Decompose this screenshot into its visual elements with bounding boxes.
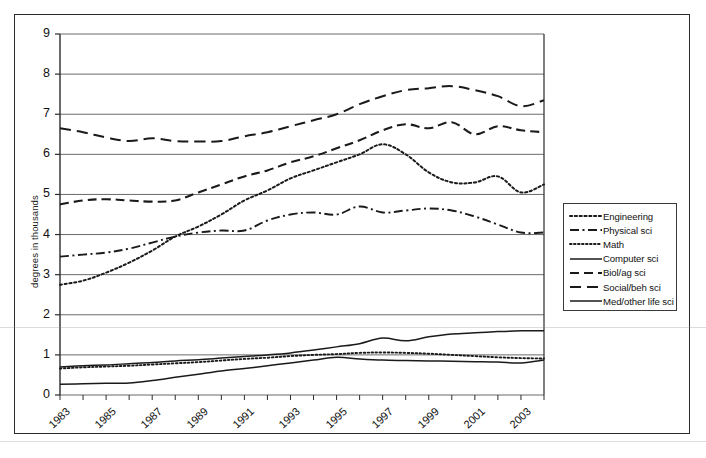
legend-item-label: Med/other life sci	[603, 296, 674, 307]
figure-container: degrees in thousands 9876543210 19831985…	[0, 0, 706, 458]
series-line	[60, 206, 544, 256]
legend-item-label: Biol/ag sci	[603, 267, 646, 278]
legend-line-swatch	[569, 296, 603, 306]
legend-item: Biol/ag sci	[564, 266, 676, 280]
y-tick-label: 9	[30, 26, 50, 40]
y-tick-label: 3	[30, 267, 50, 281]
y-tick-label: 8	[30, 66, 50, 80]
legend-line-swatch	[569, 211, 603, 221]
legend-item-label: Computer sci	[603, 253, 658, 264]
legend-item-label: Physical sci	[603, 225, 652, 236]
legend-line-swatch	[569, 268, 603, 278]
legend-item-label: Social/beh sci	[603, 282, 661, 293]
scan-artifact-line	[0, 441, 706, 442]
legend-line-swatch	[569, 282, 603, 292]
y-tick-label: 6	[30, 146, 50, 160]
scan-artifact-line	[0, 327, 706, 328]
legend-item: Social/beh sci	[564, 280, 676, 294]
legend-line-swatch	[569, 254, 603, 264]
chart-legend: EngineeringPhysical sciMathComputer sciB…	[563, 203, 677, 311]
legend-item-label: Engineering	[603, 211, 653, 222]
y-tick-label: 1	[30, 347, 50, 361]
legend-item: Med/other life sci	[564, 294, 676, 308]
legend-line-swatch	[569, 225, 603, 235]
legend-item: Computer sci	[564, 252, 676, 266]
y-tick-label: 7	[30, 106, 50, 120]
legend-item: Engineering	[564, 209, 676, 223]
legend-item-label: Math	[603, 239, 624, 250]
legend-item: Math	[564, 237, 676, 251]
y-tick-label: 0	[30, 387, 50, 401]
legend-line-swatch	[569, 239, 603, 249]
series-line	[60, 122, 544, 204]
y-tick-label: 2	[30, 307, 50, 321]
y-tick-label: 4	[30, 227, 50, 241]
y-tick-label: 5	[30, 186, 50, 200]
legend-item: Physical sci	[564, 223, 676, 237]
series-line	[60, 357, 544, 384]
